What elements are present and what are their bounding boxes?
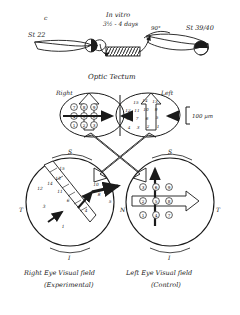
stage-left-label: St 22 — [28, 31, 45, 39]
left-eye-grid: 3 6 9 2 5 8 1 4 7 — [140, 184, 173, 219]
left-eye-cell: 6 — [155, 185, 158, 190]
tectum-cell: 8 — [83, 105, 86, 110]
explant-block — [106, 47, 140, 56]
stage-right-label: St 39/40 — [186, 24, 214, 32]
tectum-cell: 3 — [137, 125, 140, 130]
tectum-grid-row-top: 7 8 9 — [71, 104, 98, 111]
tectum-cell: 12 — [125, 108, 131, 113]
tectum-cell: 9 — [155, 107, 158, 112]
culture-duration-label: 3½ - 4 days — [103, 20, 138, 28]
left-eye-caption-line1: Left Eye Visual field — [125, 269, 192, 277]
right-eye-caption-line2: (Experimental) — [44, 281, 94, 289]
tectum-cell: 11 — [134, 108, 139, 113]
left-eye-cell: 2 — [142, 199, 145, 204]
left-eye-cell: 8 — [168, 199, 171, 204]
right-eye-number: 8 — [98, 192, 101, 197]
tectum-grid-row-bottom: 1 2 3 — [71, 122, 98, 129]
tectum-cell: 4 — [127, 125, 131, 130]
left-eye-cell: 3 — [142, 185, 145, 190]
tectum-cell: 15 — [133, 100, 139, 105]
right-eye-number: 6 — [67, 198, 70, 203]
left-eye-inferior-arc — [150, 248, 190, 253]
right-eye-visual-field-circle — [26, 158, 114, 246]
tectum-cell: 5 — [156, 115, 159, 120]
right-eye-number: 4 — [84, 208, 88, 213]
in-vitro-label: In vitro — [105, 11, 130, 19]
right-eye-number: 1 — [62, 224, 65, 229]
right-eye-number: 15 — [59, 166, 65, 171]
right-eye-number: 3 — [43, 204, 46, 209]
tectum-cell: 2 — [83, 123, 86, 128]
tectum-cell: 3 — [93, 123, 96, 128]
left-eye-axis-temporal: T — [216, 206, 221, 213]
scale-bar — [186, 107, 190, 124]
tectum-cell: 9 — [93, 105, 96, 110]
panel-label: c — [44, 14, 48, 21]
right-eye-number: 5 — [109, 199, 112, 204]
eye-grafted-right — [194, 41, 208, 48]
tectum-cell: 7 — [136, 116, 139, 121]
left-eye-grid-row-bottom: 1 4 7 — [140, 212, 173, 219]
left-eye-axis-superior: S — [168, 148, 172, 155]
tectum-cell: 1 — [73, 123, 76, 128]
right-eye-number: 10 — [93, 182, 99, 187]
tectum-cell: 6 — [146, 116, 149, 121]
scale-bar-label: 100 µm — [192, 113, 213, 120]
tectum-title: Optic Tectum — [88, 73, 136, 81]
tectum-cell: 14 — [142, 98, 148, 103]
right-eye-number: 14 — [47, 181, 53, 186]
tectum-left-label: Left — [160, 89, 174, 97]
right-eye-inferior-arc — [50, 248, 90, 253]
right-eye-number: 7 — [81, 194, 84, 199]
right-eye-caption-line1: Right Eye Visual field — [23, 269, 95, 277]
left-eye-grid-row-top: 3 6 9 — [140, 184, 173, 191]
left-eye-cell: 5 — [155, 199, 158, 204]
right-eye-axis-superior: S — [68, 148, 72, 155]
right-eye-axis-inferior: I — [67, 254, 71, 261]
tectum-cell: 1 — [157, 124, 160, 129]
right-eye-number: 13 — [55, 176, 61, 181]
tectum-cell: 10 — [143, 107, 149, 112]
left-eye-cell: 7 — [168, 213, 171, 218]
left-eye-cell: 9 — [168, 185, 171, 190]
left-eye-axis-inferior: I — [167, 254, 171, 261]
left-eye-caption-line2: (Control) — [151, 281, 181, 289]
hand-drawn-diagram: c St 22 In vitro 3½ - 4 days 90° St 39/4… — [0, 0, 240, 315]
chiasm-crossing-arrows — [84, 133, 156, 182]
tectum-cell: 13 — [152, 99, 158, 104]
figure-container: c St 22 In vitro 3½ - 4 days 90° St 39/4… — [0, 0, 240, 315]
left-eye-axis-nasal: N — [119, 206, 126, 213]
left-eye-grid-row-mid: 2 5 8 — [140, 198, 173, 205]
right-eye-recording-band — [44, 161, 96, 222]
right-eye-number: 11 — [57, 189, 62, 194]
arrow-out-of-culture — [139, 36, 150, 52]
tectum-right-label: Right — [55, 89, 73, 97]
rotation-angle-label: 90° — [151, 25, 161, 31]
right-eye-number: 12 — [37, 186, 43, 191]
right-eye-axis-temporal: T — [19, 206, 24, 213]
left-eye-cell: 4 — [155, 213, 158, 218]
left-eye-cell: 1 — [142, 213, 145, 218]
tectum-cell: 7 — [73, 105, 76, 110]
tectum-cell: 2 — [146, 124, 150, 129]
